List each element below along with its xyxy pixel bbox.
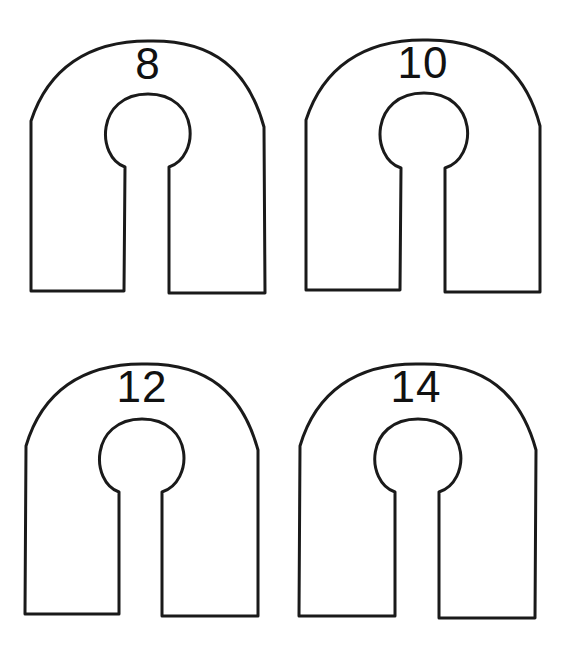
size-label: 14 (296, 364, 536, 410)
size-divider-12: 12 (22, 362, 262, 622)
size-label: 12 (22, 364, 262, 410)
size-label: 8 (28, 41, 268, 87)
size-divider-8: 8 (28, 39, 268, 299)
size-label: 10 (303, 40, 543, 86)
size-divider-10: 10 (303, 38, 543, 298)
size-divider-14: 14 (296, 362, 536, 622)
